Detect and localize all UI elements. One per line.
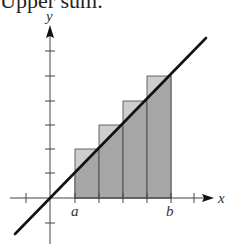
y-axis [45,30,55,244]
interval-start-label: a [71,203,79,219]
bars-lower-portion [75,76,171,198]
interval-end-label: b [166,203,174,219]
x-axis-label: x [217,190,225,206]
riemann-sum-diagram: x y a b [0,0,235,250]
y-axis-label: y [44,8,53,24]
function-line [15,38,206,234]
